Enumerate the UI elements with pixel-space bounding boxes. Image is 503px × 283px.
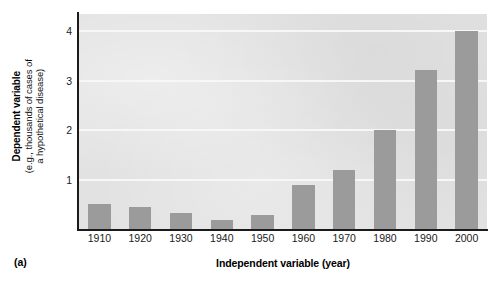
x-tick-label-1920: 1920 (129, 233, 152, 244)
x-tick-label-2000: 2000 (455, 233, 478, 244)
y-tick-label-2: 2 (66, 125, 72, 136)
y-axis-title: Dependent variable (e.g., thousands of c… (0, 0, 56, 232)
x-tick-label-1960: 1960 (292, 233, 315, 244)
panel-caption: (a) (14, 256, 27, 268)
bar-1930 (170, 213, 192, 229)
y-tick-label-4: 4 (66, 26, 72, 37)
bar-1970 (333, 170, 355, 229)
bar-1940 (211, 220, 233, 229)
y-tick-label-1: 1 (66, 174, 72, 185)
bar-1910 (88, 204, 110, 229)
x-tick-label-1930: 1930 (169, 233, 192, 244)
x-axis-title: Independent variable (year) (79, 257, 487, 269)
y-tick-label-3: 3 (66, 75, 72, 86)
x-tick-label-1940: 1940 (210, 233, 233, 244)
bar-1960 (292, 185, 314, 229)
y-axis-line (77, 12, 79, 231)
y-axis-title-main: Dependent variable (11, 59, 23, 173)
plot-area (79, 14, 487, 229)
y-axis-title-sub-line2: a hypothetical disease) (34, 59, 46, 173)
bar-1920 (129, 207, 151, 229)
x-axis-tick-labels: 1910192019301940195019601970198019902000 (79, 233, 487, 249)
x-tick-label-1910: 1910 (88, 233, 111, 244)
bar-2000 (455, 31, 477, 229)
bar-1950 (251, 215, 273, 229)
x-tick-label-1950: 1950 (251, 233, 274, 244)
x-tick-label-1990: 1990 (414, 233, 437, 244)
x-axis-line (77, 229, 488, 231)
x-tick-label-1980: 1980 (373, 233, 396, 244)
bar-1980 (374, 130, 396, 229)
y-axis-title-sub-line1: (e.g., thousands of cases of (22, 59, 34, 173)
x-tick-label-1970: 1970 (333, 233, 356, 244)
figure-panel-a: Dependent variable (e.g., thousands of c… (0, 0, 503, 283)
gridline-4 (79, 30, 487, 32)
bar-1990 (415, 70, 437, 229)
y-axis-tick-labels: 1234 (54, 10, 76, 235)
